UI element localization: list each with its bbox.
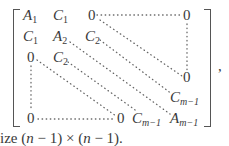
entry-c1-left: C1 (23, 29, 38, 48)
entry-zero-top-left: 0 (88, 8, 96, 23)
entry-am1: Am−1 (170, 111, 198, 130)
entry-cm1-upper: Cm−1 (170, 90, 199, 109)
entry-zero-right-column: 0 (183, 70, 191, 85)
entry-c2-upper: C2 (85, 29, 100, 48)
entry-zero-row3-left: 0 (27, 50, 35, 65)
entry-zero-bottom-mid: 0 (117, 111, 125, 126)
entry-zero-bottom-left: 0 (27, 111, 35, 126)
entry-zero-top-right: 0 (183, 8, 191, 23)
entry-a1: A1 (23, 8, 37, 27)
entry-cm1-lower: Cm−1 (132, 111, 161, 130)
caption-text: ize (n − 1) × (n − 1). (0, 130, 123, 146)
entry-c1-top: C1 (53, 8, 68, 27)
matrix-trailing-comma: , (218, 58, 222, 75)
entry-a2: A2 (53, 29, 67, 48)
entry-c2-lower: C2 (53, 50, 68, 69)
